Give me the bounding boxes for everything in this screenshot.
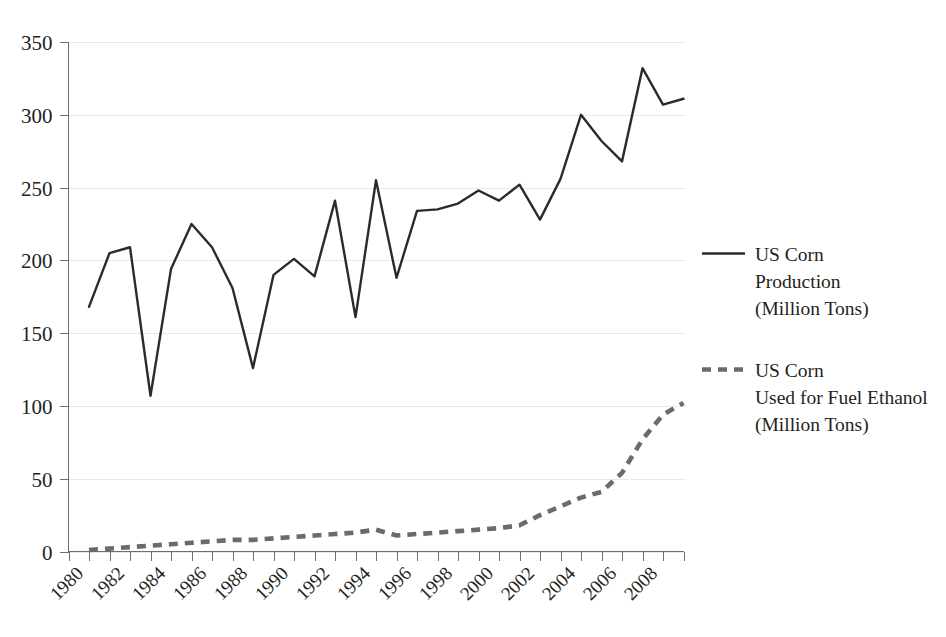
y-axis-tick-label: 150 — [21, 322, 53, 346]
legend-label-production-line1: US Corn — [755, 244, 824, 265]
y-axis-tick-label: 50 — [32, 468, 53, 492]
legend-label-production-line3: (Million Tons) — [755, 298, 869, 320]
line-chart: 050100150200250300350 198019821984198619… — [0, 0, 946, 637]
y-axis-tick-label: 0 — [42, 541, 53, 565]
y-axis-tick-label: 200 — [21, 249, 53, 273]
y-axis-tick-label: 350 — [21, 31, 53, 55]
y-axis-tick-label: 100 — [21, 395, 53, 419]
legend-label-production-line2: Production — [755, 271, 841, 292]
y-axis-tick-label: 250 — [21, 177, 53, 201]
chart-figure: 050100150200250300350 198019821984198619… — [0, 0, 946, 637]
legend-label-ethanol-line2: Used for Fuel Ethanol — [755, 387, 928, 408]
legend-label-ethanol-line1: US Corn — [755, 360, 824, 381]
legend-label-ethanol-line3: (Million Tons) — [755, 414, 869, 436]
y-axis-tick-label: 300 — [21, 104, 53, 128]
